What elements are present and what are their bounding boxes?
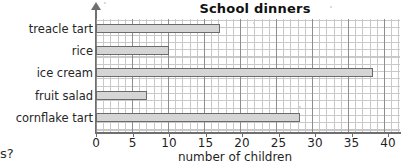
category-label-treacle-tart: treacle tart	[1, 23, 93, 35]
bar-fruit-salad	[96, 91, 147, 100]
chart-title: School dinners	[175, 1, 335, 16]
x-tick-label-35: 35	[337, 136, 367, 150]
category-label-ice-cream: ice cream	[1, 67, 93, 79]
bar-chart-figure: School dinners treacle tartriceice cream…	[0, 0, 411, 165]
bar-ice-cream	[96, 68, 373, 77]
x-tick-label-25: 25	[264, 136, 294, 150]
x-axis-label: number of children	[150, 150, 320, 164]
x-tick-label-15: 15	[191, 136, 221, 150]
scan-speckle	[299, 106, 301, 108]
x-tick-label-10: 10	[154, 136, 184, 150]
category-label-rice: rice	[1, 45, 93, 57]
page-text-fragment: s?	[0, 146, 14, 161]
scan-speckle	[253, 22, 255, 24]
scan-speckle	[104, 2, 106, 4]
category-axis-labels: treacle tartriceice creamfruit saladcorn…	[0, 0, 93, 165]
x-axis-line	[95, 132, 401, 134]
scan-speckle	[330, 6, 332, 8]
bar-treacle-tart	[96, 24, 220, 33]
x-tick-label-5: 5	[118, 136, 148, 150]
x-tick-label-40: 40	[373, 136, 403, 150]
category-label-cornflake-tart: cornflake tart	[1, 112, 93, 124]
bar-cornflake-tart	[96, 113, 300, 122]
bar-rice	[96, 46, 169, 55]
x-tick-label-0: 0	[81, 136, 111, 150]
category-label-fruit-salad: fruit salad	[1, 90, 93, 102]
x-tick-label-30: 30	[300, 136, 330, 150]
x-tick-label-20: 20	[227, 136, 257, 150]
